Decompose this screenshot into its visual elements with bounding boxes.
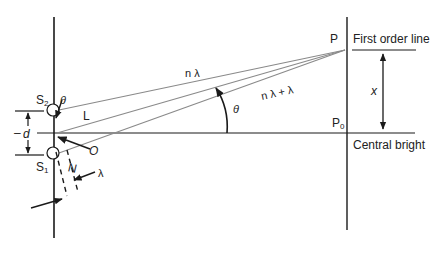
n-label: N: [66, 160, 78, 176]
l-label: L: [83, 109, 90, 123]
p0-label: P0: [332, 116, 345, 131]
d-dash-label: –: [14, 126, 21, 140]
ray-from-midpoint: [57, 50, 345, 133]
p-label: P: [330, 32, 338, 46]
central-bright-label: Central bright: [353, 138, 426, 152]
theta-angle-label: θ: [233, 103, 239, 115]
n-lambda-plus-label: n λ + λ: [260, 83, 295, 102]
x-label: x: [370, 84, 378, 98]
lambda-arrow-left: [31, 199, 62, 208]
o-label: O: [89, 144, 98, 158]
d-label: d: [23, 127, 30, 141]
lambda-small-label: λ: [98, 167, 104, 179]
double-slit-diagram: S2 S1 θ L – d O N λ n λ n λ + λ θ P P0 x…: [0, 0, 440, 253]
s2-label: S2: [36, 93, 49, 108]
theta-slit-label: θ: [60, 94, 66, 106]
lambda-arrow-right: [74, 172, 95, 180]
first-order-line-label: First order line: [353, 32, 430, 46]
slit-s1: [47, 147, 59, 159]
dashed-perpendicular-1: [56, 152, 67, 196]
n-lambda-label: n λ: [185, 67, 200, 79]
s1-label: S1: [36, 160, 49, 175]
rays-to-p: [57, 50, 345, 153]
